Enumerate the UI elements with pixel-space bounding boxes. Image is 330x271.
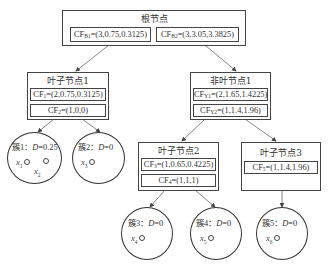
point-x3: x3: [81, 157, 95, 171]
leaf-node-3-title: 叶子节点3: [242, 148, 320, 158]
edge-nonleaf1-leaf3: [245, 119, 276, 141]
leaf-node-1: 叶子节点1 CF1=(2,0.75,0.3125) CF2=(1,0,0): [27, 72, 109, 120]
cluster-2-label: 簇2：D=0: [78, 143, 113, 153]
point-x5: x5: [200, 233, 214, 247]
edge-leaf1-cluster2: [82, 119, 100, 132]
point-marker: [43, 158, 49, 164]
root-node-title: 根节点: [63, 14, 245, 24]
point-x2: x2: [34, 163, 41, 180]
edge-leaf2-cluster3: [150, 190, 165, 207]
cf-entry-y1: CFY1=(2,1.65,1.4225): [193, 88, 268, 101]
root-node: 根节点 CFB1=(3,0.75,0.3125) CFB2=(3,3.05,3.…: [62, 10, 246, 46]
point-x4: x4: [131, 233, 145, 247]
cluster-4-label: 簇4：D=0: [196, 219, 231, 229]
cf-entry-4: CF4=(1,1,1): [141, 174, 216, 187]
cf-entry-2: CF2=(1,0,0): [30, 104, 106, 117]
leaf-node-1-title: 叶子节点1: [28, 76, 108, 86]
point-marker: [274, 235, 280, 241]
point-marker: [89, 159, 95, 165]
point-x1: x1: [16, 157, 30, 171]
nonleaf-node-1-title: 非叶节点1: [191, 76, 270, 86]
edge-nonleaf1-leaf2: [182, 119, 205, 141]
point-marker: [139, 235, 145, 241]
nonleaf-node-1: 非叶节点1 CFY1=(2,1.65,1.4225) CFY2=(1,1.4,1…: [190, 72, 271, 120]
cluster-5: [256, 207, 308, 260]
cluster-1-label: 簇1：D=0.25: [12, 143, 58, 153]
leaf-node-2: 叶子节点2 CF3=(1,0.65,0.4225) CF4=(1,1,1): [138, 142, 219, 191]
cf-entry-b2: CFB2=(3,3.05,3.3825): [156, 27, 239, 42]
cf-entry-1: CF1=(2,0.75,0.3125): [30, 88, 106, 101]
point-marker: [24, 159, 30, 165]
cluster-3: [121, 207, 173, 260]
point-x6: x6: [266, 233, 280, 247]
cluster-2: [72, 132, 125, 184]
cf-entry-y2: CFY2=(1,1.4,1.96): [193, 104, 268, 117]
cf-entry-3: CF3=(1,0.65,0.4225): [141, 158, 216, 171]
edge-leaf2-cluster4: [195, 190, 215, 207]
cluster-5-label: 簇5：D=0: [262, 219, 297, 229]
leaf-node-2-title: 叶子节点2: [139, 146, 218, 156]
cf-entry-5: CF5=(1,1.4,1.96): [244, 161, 318, 174]
leaf-node-3: 叶子节点3 CF5=(1,1.4,1.96): [241, 142, 321, 191]
cluster-3-label: 簇3：D=0: [128, 219, 163, 229]
point-marker: [208, 235, 214, 241]
edge-leaf1-cluster1: [38, 119, 54, 132]
cluster-4: [190, 207, 242, 260]
cf-entry-b1: CFB1=(3,0.75,0.3125): [70, 27, 151, 42]
